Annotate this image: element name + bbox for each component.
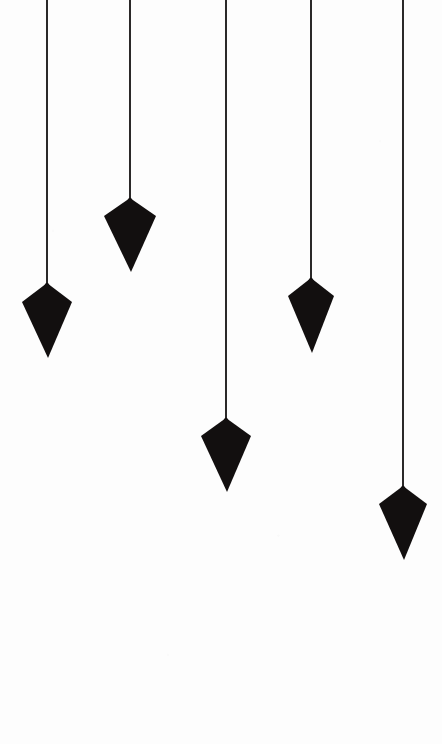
plumb-bob-illustration [0,0,442,744]
background-rect [0,0,442,744]
artwork-canvas: Suspended Plumb Bobs Five dark plumb-bob… [0,0,442,744]
